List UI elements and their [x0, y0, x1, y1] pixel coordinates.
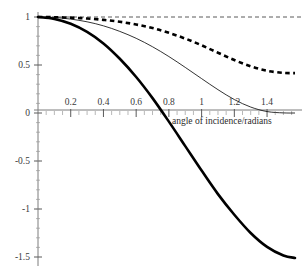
- y-axis-tick-labels: 10.50-0.5-1-1.5: [15, 12, 30, 262]
- thick-solid-curve: [38, 17, 295, 258]
- x-tick-label: 1: [199, 97, 204, 107]
- x-tick-label: 0.6: [130, 97, 142, 107]
- y-tick-label: -0.5: [15, 156, 30, 166]
- x-tick-label: 0.4: [98, 97, 110, 107]
- x-axis-tick-labels: 0.20.40.60.811.21.4: [65, 97, 273, 107]
- x-axis-label: angle of incidence/radians: [172, 116, 272, 126]
- x-tick-label: 0.2: [65, 97, 77, 107]
- y-tick-label: 0: [25, 108, 30, 118]
- y-tick-label: -1.5: [15, 252, 30, 262]
- y-tick-label: 0.5: [18, 60, 30, 70]
- y-tick-label: 1: [25, 12, 30, 22]
- x-tick-label: 1.4: [261, 97, 273, 107]
- x-tick-label: 0.8: [163, 97, 175, 107]
- y-tick-label: -1: [22, 204, 30, 214]
- chart-canvas: 10.50-0.5-1-1.5 0.20.40.60.811.21.4 angl…: [0, 0, 306, 274]
- chart-figure: 10.50-0.5-1-1.5 0.20.40.60.811.21.4 angl…: [0, 0, 306, 274]
